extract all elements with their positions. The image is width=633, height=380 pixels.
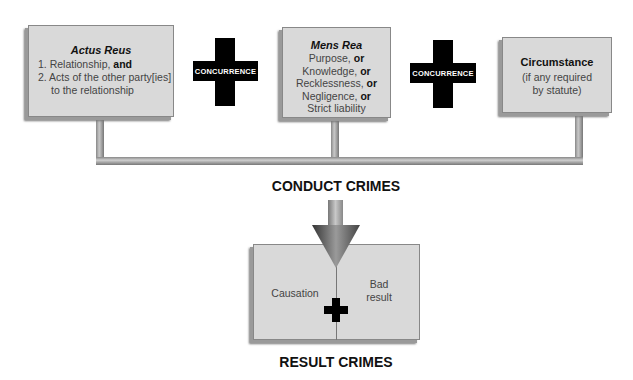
mens-rea-line: Negligence, or	[283, 90, 390, 103]
mens-rea-line: Knowledge, or	[283, 65, 390, 78]
mens-rea-box: Mens Rea Purpose, or Knowledge, or Reckl…	[282, 27, 391, 118]
concurrence-label-2: CONCURRENCE	[410, 63, 476, 83]
actus-reus-item-2: 2. Acts of the other party[ies]	[38, 71, 173, 84]
circumstance-box: Circumstance (if any required by statute…	[502, 37, 612, 113]
pipe-horizontal	[96, 157, 583, 165]
actus-reus-title: Actus Reus	[29, 44, 173, 56]
circumstance-title: Circumstance	[503, 56, 611, 68]
actus-reus-item-2-cont: to the relationship	[38, 84, 173, 97]
result-crimes-label: RESULT CRIMES	[236, 354, 436, 370]
mens-rea-line: Strict liability	[283, 102, 390, 115]
mens-rea-line: Purpose, or	[283, 52, 390, 65]
concurrence-label-1: CONCURRENCE	[193, 61, 258, 81]
down-arrow-icon	[310, 200, 362, 270]
mens-rea-title: Mens Rea	[283, 39, 390, 51]
bad-result-label: Bad result	[354, 278, 404, 304]
actus-reus-box: Actus Reus 1. Relationship, and 2. Acts …	[28, 25, 174, 117]
mens-rea-line: Recklessness, or	[283, 77, 390, 90]
circumstance-note: (if any required by statute)	[503, 71, 611, 97]
actus-reus-item-1: 1. Relationship, and	[38, 58, 173, 71]
pipe-circumstance	[575, 110, 583, 164]
mens-rea-list: Purpose, or Knowledge, or Recklessness, …	[283, 52, 390, 115]
conduct-crimes-label: CONDUCT CRIMES	[236, 178, 436, 194]
actus-reus-list: 1. Relationship, and 2. Acts of the othe…	[29, 58, 173, 97]
causation-label: Causation	[264, 287, 326, 300]
